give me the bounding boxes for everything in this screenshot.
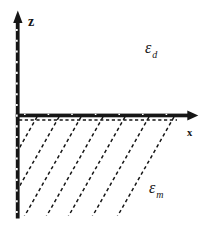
- epsilon-m-label: εm: [149, 180, 164, 196]
- z-axis-arrowhead: [13, 11, 22, 24]
- epsilon-m-symbol: ε: [149, 179, 155, 196]
- epsilon-d-symbol: ε: [145, 39, 151, 56]
- x-axis-line: [16, 114, 190, 118]
- epsilon-m-subscript: m: [156, 189, 163, 200]
- z-axis-line: [16, 20, 20, 219]
- epsilon-d-label: εd: [145, 40, 157, 56]
- x-axis-label: x: [187, 128, 192, 139]
- z-axis-label: z: [28, 15, 34, 29]
- x-axis-arrowhead: [187, 110, 198, 120]
- figure-canvas: z x εd εm: [0, 0, 208, 236]
- hatch-pattern: [0, 117, 174, 217]
- axes-and-hatching: [0, 0, 208, 236]
- epsilon-d-subscript: d: [152, 49, 157, 60]
